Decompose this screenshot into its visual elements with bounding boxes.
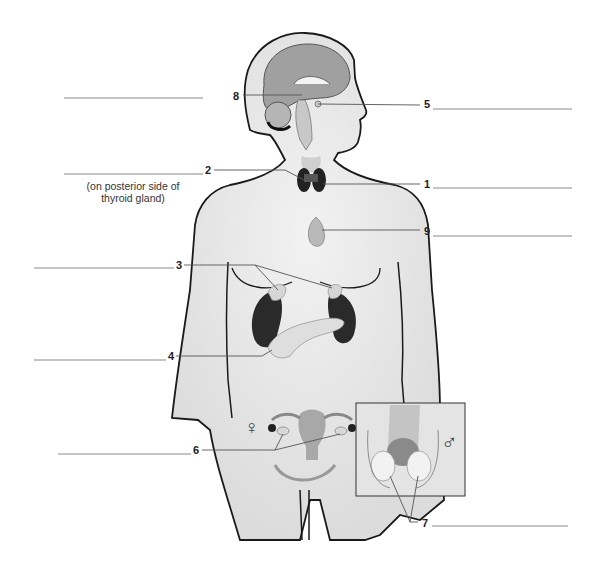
label-4: 4 (168, 351, 174, 362)
body-illustration (0, 0, 601, 580)
male-symbol-icon: ♂ (441, 432, 458, 454)
female-symbol-icon: ♀ (244, 417, 259, 437)
label-7: 7 (422, 518, 428, 529)
label-1: 1 (424, 179, 430, 190)
label-3: 3 (176, 260, 182, 271)
label-9: 9 (424, 226, 430, 237)
label-6: 6 (193, 445, 199, 456)
endocrine-diagram: 8 5 2 1 9 3 4 6 7 (on posterior side of … (0, 0, 601, 580)
label-2: 2 (205, 165, 211, 176)
label-5: 5 (424, 99, 430, 110)
parathyroid-note: (on posterior side of thyroid gland) (58, 180, 208, 204)
note-line-1: (on posterior side of (58, 180, 208, 192)
label-8: 8 (233, 91, 239, 102)
note-line-2: thyroid gland) (58, 192, 208, 204)
